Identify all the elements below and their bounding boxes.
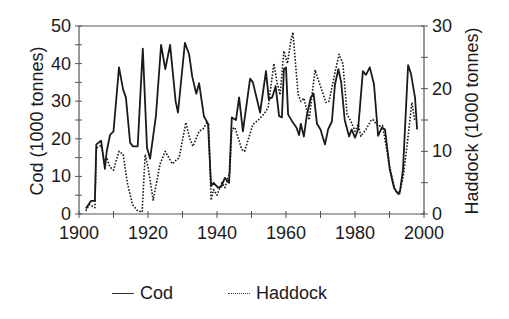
x-tick-label: 1960	[266, 223, 306, 243]
y-right-tick-label: 30	[432, 16, 452, 36]
x-tick-label: 1900	[59, 223, 99, 243]
legend-item-cod: Cod	[112, 283, 173, 304]
chart: 0102030405001020301900192019401960198020…	[0, 0, 509, 319]
y-right-tick-label: 20	[432, 79, 452, 99]
legend-item-haddock: Haddock	[228, 283, 327, 304]
y-tick-label: 0	[61, 204, 71, 224]
solid-line-swatch-icon	[112, 293, 134, 294]
x-tick-label: 1920	[128, 223, 168, 243]
haddock-series-line	[86, 32, 415, 212]
right-axis-title: Haddock (1000 tonnes)	[462, 27, 482, 214]
x-tick-label: 1940	[197, 223, 237, 243]
y-right-tick-label: 10	[432, 141, 452, 161]
y-tick-label: 10	[51, 166, 71, 186]
legend-label-cod: Cod	[140, 283, 173, 304]
y-tick-label: 30	[51, 91, 71, 111]
y-tick-label: 20	[51, 129, 71, 149]
legend: Cod Haddock	[112, 283, 382, 304]
x-tick-label: 2000	[404, 223, 444, 243]
y-tick-label: 50	[51, 16, 71, 36]
left-axis-title: Cod (1000 tonnes)	[27, 46, 47, 195]
y-right-tick-label: 0	[432, 204, 442, 224]
legend-label-haddock: Haddock	[256, 283, 327, 304]
plot-area: 0102030405001020301900192019401960198020…	[0, 0, 509, 319]
x-tick-label: 1980	[335, 223, 375, 243]
y-tick-label: 40	[51, 54, 71, 74]
dotted-line-swatch-icon	[228, 293, 250, 294]
